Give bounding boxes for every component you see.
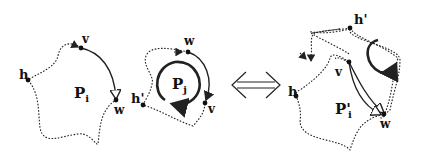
label-v: v — [207, 102, 216, 116]
label-w: w — [113, 103, 125, 117]
label-v: v — [334, 65, 343, 79]
label-h: h — [288, 84, 298, 99]
vertex-v — [79, 46, 84, 51]
polygon-merge-diagram: h v w Pi w v h' Pj — [0, 0, 441, 168]
label-w: w — [183, 34, 195, 48]
label-h: h — [19, 67, 29, 82]
equivalence-arrow-icon — [232, 72, 280, 98]
label-p-i-prime: P'i — [335, 100, 352, 120]
polygon-p-j: w v h' Pj — [131, 34, 216, 126]
label-h-prime: h' — [131, 91, 144, 106]
label-p-i: Pi — [74, 84, 89, 104]
polygon-p-i-prime: h' v w h P'i — [288, 12, 400, 150]
vertex-v — [203, 101, 208, 106]
label-p-j: Pj — [172, 75, 187, 95]
label-w: w — [379, 117, 391, 131]
label-v: v — [81, 32, 90, 46]
vertex-w — [186, 50, 191, 55]
vertex-w — [114, 98, 119, 103]
polygon-p-i: h v w Pi — [19, 32, 125, 144]
vertex-h-prime — [348, 26, 353, 31]
vertex-v — [347, 60, 352, 65]
vertex-w — [382, 112, 387, 117]
label-h-prime: h' — [354, 12, 367, 27]
